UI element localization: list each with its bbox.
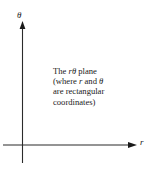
caption-line-1-prefix: The: [53, 66, 69, 76]
caption-line-2: (where r and θ: [53, 76, 135, 86]
rtheta-plane-figure: θ r The rθ plane (where r and θ are rect…: [0, 0, 154, 170]
caption-line-2-mid: and: [82, 76, 99, 86]
theta-axis-arrowhead: [20, 21, 26, 29]
caption-line-2-prefix: (where: [53, 76, 79, 86]
r-axis-label: r: [140, 138, 144, 147]
caption-text-block: The rθ plane (where r and θ are rectangu…: [53, 66, 135, 107]
caption-line-1-suffix: plane: [76, 66, 97, 76]
caption-line-3: are rectangular: [53, 86, 135, 96]
r-axis-arrowhead: [128, 142, 137, 148]
caption-line-2-var-theta: θ: [99, 76, 103, 86]
caption-line-1: The rθ plane: [53, 66, 135, 76]
theta-axis-label: θ: [17, 11, 21, 20]
caption-line-4: coordinates): [53, 97, 135, 107]
